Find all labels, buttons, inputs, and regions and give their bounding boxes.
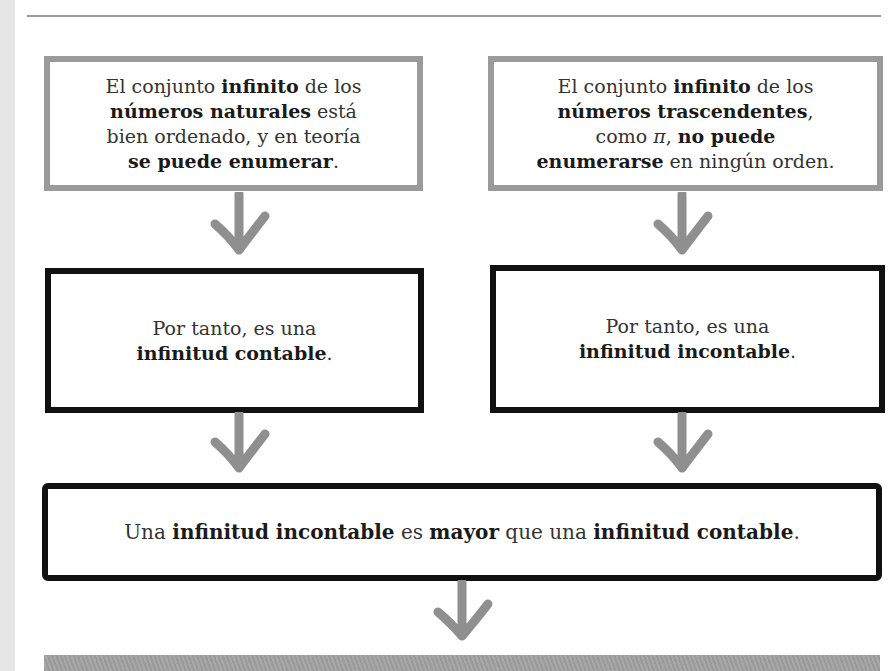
natural-numbers-box: El conjunto infinito de los números natu… <box>44 56 423 191</box>
emphasis: números naturales <box>110 100 311 122</box>
text: . <box>327 342 333 364</box>
text: está <box>311 100 357 122</box>
arrow-down-icon <box>205 412 275 480</box>
next-box-top-edge <box>44 655 880 671</box>
countable-infinity-text: Por tanto, es una infinitud contable. <box>136 316 332 366</box>
emphasis: no puede <box>678 125 776 147</box>
conclusion-box: Una infinitud incontable es mayor que un… <box>42 483 882 581</box>
text: como <box>596 125 654 147</box>
emphasis: infinitud incontable <box>579 340 790 362</box>
arrow-down-icon <box>205 192 275 262</box>
countable-infinity-box: Por tanto, es una infinitud contable. <box>45 268 424 413</box>
emphasis: infinitud contable <box>136 342 326 364</box>
arrow-down-icon <box>648 192 718 262</box>
arrow-down-icon <box>648 412 718 480</box>
page-edge-strip <box>0 0 15 671</box>
text: es <box>395 520 430 544</box>
text: de los <box>299 75 362 97</box>
uncountable-infinity-text: Por tanto, es una infinitud incontable. <box>579 314 796 364</box>
emphasis: mayor <box>429 520 499 544</box>
transcendental-numbers-box: El conjunto infinito de los números tras… <box>488 56 883 191</box>
emphasis: enumerarse <box>536 150 663 172</box>
text: Por tanto, es una <box>606 315 770 337</box>
text: El conjunto <box>106 75 222 97</box>
emphasis: infinitud incontable <box>172 520 394 544</box>
transcendental-numbers-text: El conjunto infinito de los números tras… <box>536 74 834 174</box>
emphasis: infinito <box>673 75 750 97</box>
text: Por tanto, es una <box>153 317 317 339</box>
top-rule <box>27 15 881 17</box>
pi-symbol: π <box>653 125 666 147</box>
text: en ningún orden. <box>664 150 835 172</box>
text: de los <box>751 75 814 97</box>
text: que una <box>499 520 593 544</box>
conclusion-text: Una infinitud incontable es mayor que un… <box>124 520 799 545</box>
uncountable-infinity-box: Por tanto, es una infinitud incontable. <box>490 265 885 413</box>
text: . <box>790 340 796 362</box>
text: . <box>333 150 339 172</box>
text: El conjunto <box>558 75 674 97</box>
text: . <box>793 520 799 544</box>
arrow-down-icon <box>428 580 498 646</box>
emphasis: se puede enumerar <box>128 150 333 172</box>
emphasis: infinito <box>221 75 298 97</box>
text: Una <box>124 520 172 544</box>
text: bien ordenado, y en teoría <box>106 125 360 147</box>
natural-numbers-text: El conjunto infinito de los números natu… <box>106 74 362 174</box>
text: , <box>807 100 813 122</box>
emphasis: infinitud contable <box>593 520 793 544</box>
emphasis: números trascendentes <box>558 100 808 122</box>
text: , <box>666 125 678 147</box>
